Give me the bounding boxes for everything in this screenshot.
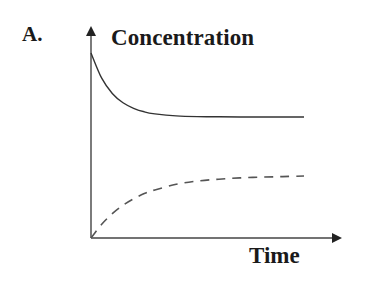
dashed-rise-curve xyxy=(91,176,304,238)
solid-decay-curve xyxy=(91,53,304,117)
plot-area xyxy=(0,0,371,282)
